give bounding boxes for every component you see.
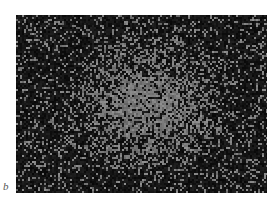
speckle-noise-canvas bbox=[16, 15, 267, 193]
speckle-image bbox=[16, 15, 267, 193]
panel-label: b bbox=[3, 180, 9, 192]
